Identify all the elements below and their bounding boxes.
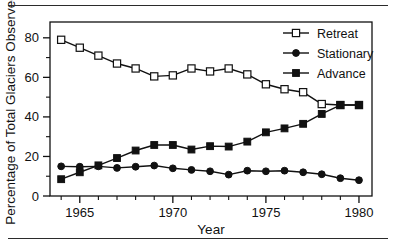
bottom-rule [8,238,388,239]
data-point-advance [318,111,325,118]
data-point-stationary [281,167,288,174]
data-point-stationary [244,167,251,174]
y-tick-label: 40 [25,109,39,124]
data-point-stationary [169,165,176,172]
data-point-retreat [169,72,176,79]
data-point-advance [132,147,139,154]
data-point-advance [58,176,65,183]
data-point-advance [337,102,344,109]
legend-label-retreat: Retreat [317,27,359,41]
data-point-retreat [132,65,139,72]
data-point-advance [244,138,251,145]
legend-marker-stationary [293,50,300,57]
data-point-advance [151,142,158,149]
data-point-stationary [58,163,65,170]
y-tick-label: 60 [25,70,39,85]
data-point-advance [300,120,307,127]
data-point-advance [95,162,102,169]
data-point-stationary [207,168,214,175]
y-tick-label: 20 [25,149,39,164]
data-point-advance [169,142,176,149]
data-point-stationary [263,168,270,175]
data-point-stationary [337,175,344,182]
x-tick-label: 1965 [65,205,94,220]
line-chart: 1965197019751980020406080YearPercentage … [0,0,396,245]
data-point-stationary [188,167,195,174]
data-point-retreat [206,68,213,75]
data-point-advance [76,169,83,176]
data-point-retreat [318,100,325,107]
data-point-advance [281,125,288,132]
data-point-retreat [76,44,83,51]
figure-container: 1965197019751980020406080YearPercentage … [0,0,396,245]
legend-marker-advance [293,70,300,77]
data-point-retreat [95,52,102,59]
legend-label-advance: Advance [317,67,366,81]
data-point-retreat [188,65,195,72]
data-point-retreat [225,65,232,72]
data-point-retreat [300,89,307,96]
data-point-advance [188,146,195,153]
data-point-retreat [58,36,65,43]
data-point-retreat [262,81,269,88]
data-point-retreat [244,71,251,78]
x-tick-label: 1970 [158,205,187,220]
x-axis-title: Year [197,222,225,237]
data-point-stationary [225,171,232,178]
data-point-retreat [281,86,288,93]
data-point-advance [225,143,232,150]
legend-marker-retreat [292,29,299,36]
data-point-stationary [356,177,363,184]
x-tick-label: 1975 [251,205,280,220]
data-point-stationary [151,162,158,169]
legend-label-stationary: Stationary [317,47,374,61]
y-tick-label: 80 [25,30,39,45]
data-point-stationary [114,165,121,172]
data-point-stationary [318,171,325,178]
data-point-stationary [132,163,139,170]
top-rule [8,5,388,6]
x-tick-label: 1980 [345,205,374,220]
data-point-advance [263,129,270,136]
data-point-advance [356,102,363,109]
data-point-advance [207,143,214,150]
data-point-retreat [151,73,158,80]
y-axis-title: Percentage of Total Glaciers Observed [3,0,18,225]
data-point-advance [114,155,121,162]
y-tick-label: 0 [32,189,39,204]
data-point-stationary [300,169,307,176]
data-point-retreat [113,60,120,67]
